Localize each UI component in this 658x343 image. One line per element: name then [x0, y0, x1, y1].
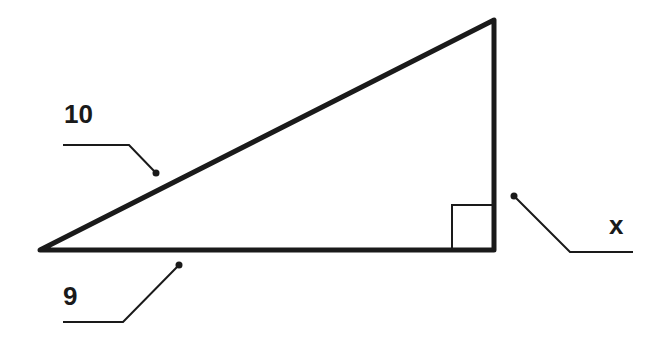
- right-triangle-diagram: 10 9 x: [0, 0, 658, 343]
- hypotenuse-leader: [63, 145, 160, 177]
- hypotenuse-label: 10: [64, 99, 93, 129]
- triangle-outline: [40, 20, 494, 250]
- right-angle-marker: [452, 205, 494, 250]
- height-label: x: [609, 210, 624, 240]
- base-leader: [63, 262, 183, 323]
- base-label: 9: [63, 281, 77, 311]
